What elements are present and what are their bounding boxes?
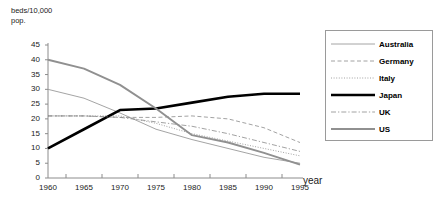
legend-item-us[interactable]: US <box>330 121 430 137</box>
series-line-us <box>48 60 300 165</box>
legend-swatch-icon <box>330 124 376 134</box>
legend-swatch-icon <box>330 39 376 49</box>
legend-item-japan[interactable]: Japan <box>330 87 430 103</box>
legend-label: Australia <box>379 40 413 49</box>
legend-label: US <box>379 125 390 134</box>
tick-marks <box>45 45 282 178</box>
legend: AustraliaGermanyItalyJapanUKUS <box>325 30 433 141</box>
legend-swatch-icon <box>330 56 376 66</box>
legend-item-australia[interactable]: Australia <box>330 36 430 52</box>
legend-label: Germany <box>379 57 414 66</box>
legend-label: UK <box>379 108 391 117</box>
legend-swatch-icon <box>330 73 376 83</box>
line-chart: beds/10,000 pop. year 051015202530354045… <box>0 0 439 217</box>
legend-label: Japan <box>379 91 402 100</box>
legend-swatch-icon <box>330 90 376 100</box>
legend-label: Italy <box>379 74 395 83</box>
legend-item-germany[interactable]: Germany <box>330 53 430 69</box>
legend-swatch-icon <box>330 107 376 117</box>
legend-item-italy[interactable]: Italy <box>330 70 430 86</box>
legend-item-uk[interactable]: UK <box>330 104 430 120</box>
